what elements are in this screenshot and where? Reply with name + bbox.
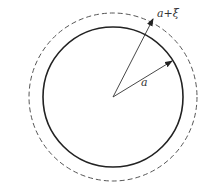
outer-radius-label: a+ξ — [157, 8, 179, 19]
circle-radius-diagram — [0, 0, 207, 196]
inner-radius-label: a — [141, 77, 148, 88]
